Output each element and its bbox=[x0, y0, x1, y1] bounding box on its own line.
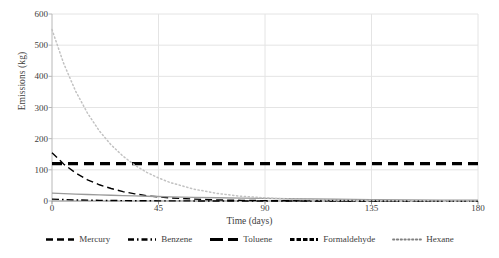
legend-label: Mercury bbox=[79, 234, 110, 244]
legend-item-toluene[interactable]: Toluene bbox=[209, 234, 272, 244]
legend-label: Benzene bbox=[161, 234, 192, 244]
legend-label: Hexane bbox=[426, 234, 453, 244]
dotted-line-icon bbox=[392, 235, 422, 244]
dash-dot-line-icon bbox=[127, 235, 157, 244]
x-tick-label: 45 bbox=[154, 203, 163, 213]
x-tick-label: 180 bbox=[471, 203, 485, 213]
solid-line-icon bbox=[209, 235, 239, 244]
legend-label: Toluene bbox=[243, 234, 272, 244]
x-axis-label: Time (days) bbox=[0, 216, 499, 226]
dashed-line-icon bbox=[45, 235, 75, 244]
x-axis-tick-labels: 04590135180 bbox=[0, 203, 499, 217]
emissions-decay-chart: Emissions (kg) 0100200300400500600 04590… bbox=[0, 0, 499, 258]
legend-item-benzene[interactable]: Benzene bbox=[127, 234, 192, 244]
x-tick-label: 135 bbox=[365, 203, 379, 213]
legend-label: Formaldehyde bbox=[323, 234, 375, 244]
x-tick-label: 90 bbox=[261, 203, 270, 213]
x-tick-label: 0 bbox=[50, 203, 55, 213]
legend-item-mercury[interactable]: Mercury bbox=[45, 234, 110, 244]
thick-dashed-line-icon bbox=[289, 235, 319, 244]
chart-legend: MercuryBenzeneTolueneFormaldehydeHexane bbox=[0, 234, 499, 244]
legend-item-formaldehyde[interactable]: Formaldehyde bbox=[289, 234, 375, 244]
legend-item-hexane[interactable]: Hexane bbox=[392, 234, 453, 244]
